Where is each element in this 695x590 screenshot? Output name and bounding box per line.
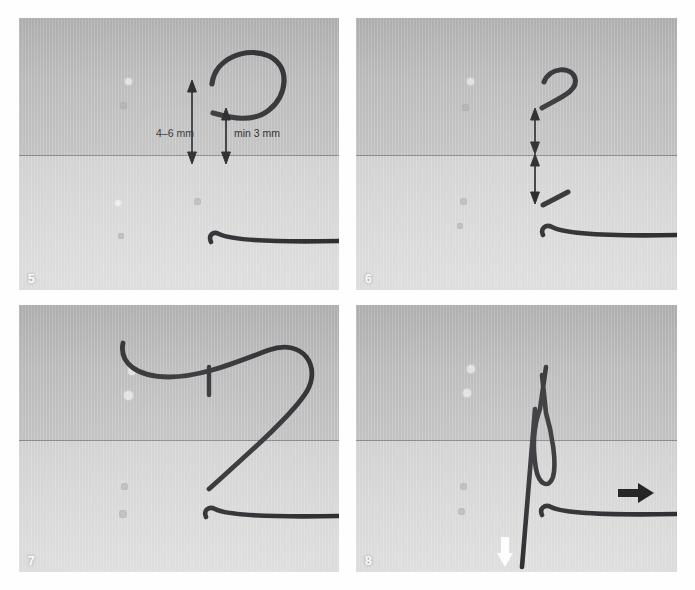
panel-vignette	[356, 18, 677, 290]
figure-sequence: 4–6 mm min 3 mm 5	[0, 0, 695, 590]
panel-7: 7	[19, 305, 339, 572]
panel-number-6: 6	[365, 273, 372, 285]
panel-vignette	[19, 305, 339, 572]
panel-8: 8	[356, 305, 677, 572]
panel-number-5: 5	[28, 273, 35, 285]
panel-number-7: 7	[28, 555, 35, 567]
panel-number-8: 8	[365, 555, 372, 567]
panel-5: 4–6 mm min 3 mm 5	[19, 18, 339, 290]
panel-vignette	[19, 18, 339, 290]
panel-vignette	[356, 305, 677, 572]
panel-6: 6	[356, 18, 677, 290]
